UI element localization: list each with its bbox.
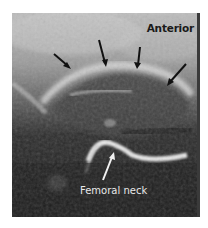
ultrasound-image: Anterior Femoral neck <box>12 13 200 217</box>
femoral-neck-label: Femoral neck <box>80 185 147 196</box>
orientation-label: Anterior <box>147 22 194 34</box>
